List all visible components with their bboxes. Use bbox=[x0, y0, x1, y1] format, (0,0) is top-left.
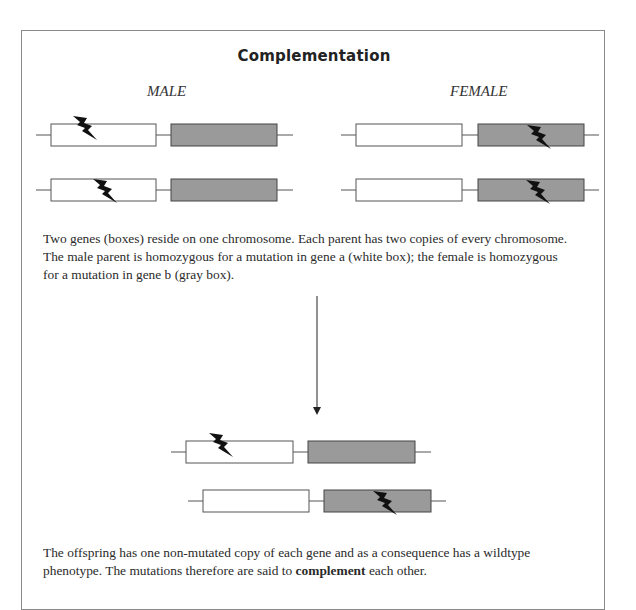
caption-offspring: The offspring has one non-mutated copy o… bbox=[43, 544, 583, 580]
figure-frame: Complementation MALE FEMALE Two genes (b… bbox=[21, 30, 605, 610]
figure-title: Complementation bbox=[22, 47, 606, 65]
caption-offspring-text: The offspring has one non-mutated copy o… bbox=[43, 545, 530, 578]
caption-parents: Two genes (boxes) reside on one chromoso… bbox=[43, 230, 573, 284]
male-label: MALE bbox=[147, 83, 186, 100]
female-label: FEMALE bbox=[450, 83, 508, 100]
caption-offspring-keyword: complement bbox=[296, 563, 366, 578]
caption-offspring-text-end: each other. bbox=[366, 563, 427, 578]
